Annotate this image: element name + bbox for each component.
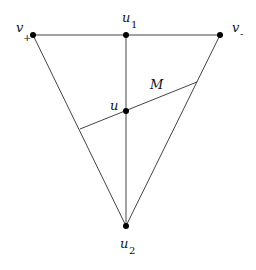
label-v-minus: v - bbox=[232, 20, 243, 39]
svg-text:v: v bbox=[232, 20, 240, 35]
node-v-minus bbox=[217, 32, 223, 38]
label-v-plus: v + bbox=[16, 20, 31, 43]
edge-vplus-u2 bbox=[33, 35, 126, 226]
svg-text:2: 2 bbox=[129, 245, 135, 256]
label-u1: u 1 bbox=[122, 10, 137, 30]
node-u1 bbox=[123, 32, 129, 38]
label-u2: u 2 bbox=[120, 236, 135, 256]
svg-text:+: + bbox=[23, 32, 31, 43]
svg-text:u: u bbox=[120, 236, 128, 251]
edge-vminus-u2 bbox=[126, 35, 220, 226]
node-u bbox=[123, 108, 129, 114]
label-m: M bbox=[149, 77, 164, 92]
segment-m bbox=[80, 82, 197, 129]
triangle-diagram: v + u 1 v - u u 2 M bbox=[0, 0, 256, 270]
svg-text:M: M bbox=[149, 77, 164, 92]
svg-text:-: - bbox=[240, 28, 243, 39]
label-u: u bbox=[110, 98, 118, 113]
node-u2 bbox=[123, 223, 129, 229]
svg-text:1: 1 bbox=[131, 19, 137, 30]
svg-text:u: u bbox=[110, 98, 118, 113]
svg-text:u: u bbox=[122, 10, 130, 25]
